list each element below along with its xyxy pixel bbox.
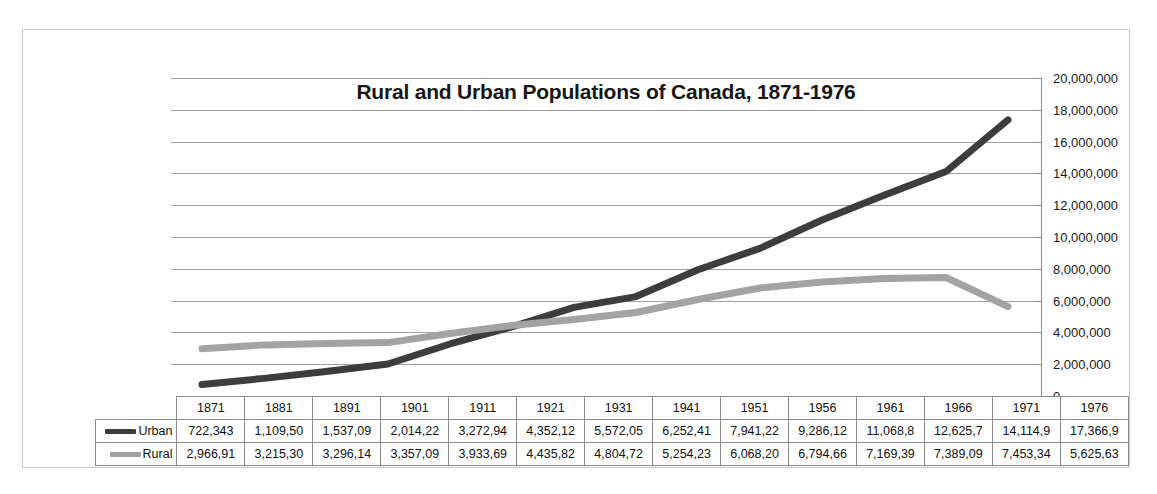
rural-line-swatch-icon — [110, 452, 141, 457]
table-cell: 4,352,12 — [517, 420, 585, 443]
table-cell: 3,357,09 — [381, 443, 449, 466]
table-cell: 5,572,05 — [585, 420, 653, 443]
table-col-header-1891: 1891 — [313, 397, 381, 420]
table-cell: 3,933,69 — [449, 443, 517, 466]
table-col-header-1941: 1941 — [653, 397, 721, 420]
table-col-header-1971: 1971 — [992, 397, 1060, 420]
axis-tick-label: 4,000,000 — [1053, 326, 1111, 339]
table-col-header-1881: 1881 — [245, 397, 313, 420]
axis-tick-label: 10,000,000 — [1053, 231, 1118, 244]
table-col-header-1911: 1911 — [449, 397, 517, 420]
urban-line-swatch-icon — [105, 429, 136, 434]
axis-tick-label: 18,000,000 — [1053, 104, 1118, 117]
table-cell: 14,114,9 — [992, 420, 1060, 443]
axis-tick — [1035, 110, 1041, 111]
legend-item-rural[interactable]: Rural — [96, 443, 177, 466]
axis-tick-label: 6,000,000 — [1053, 295, 1111, 308]
table-cell: 3,272,94 — [449, 420, 517, 443]
axis-tick-label: 14,000,000 — [1053, 167, 1118, 180]
axis-tick-label: 2,000,000 — [1053, 358, 1111, 371]
table-row-rural: Rural 2,966,913,215,303,296,143,357,093,… — [96, 443, 1129, 466]
table-col-header-1966: 1966 — [924, 397, 992, 420]
table-col-header-1901: 1901 — [381, 397, 449, 420]
axis-tick — [1035, 332, 1041, 333]
table-cell: 1,109,50 — [245, 420, 313, 443]
table-col-header-1976: 1976 — [1060, 397, 1128, 420]
table-col-header-1921: 1921 — [517, 397, 585, 420]
chart-object-frame[interactable]: Rural and Urban Populations of Canada, 1… — [22, 29, 1130, 468]
chart-screenshot: Rural and Urban Populations of Canada, 1… — [0, 0, 1157, 494]
axis-tick — [1035, 205, 1041, 206]
table-cell: 6,794,66 — [789, 443, 857, 466]
table-cell: 9,286,12 — [789, 420, 857, 443]
axis-tick — [1035, 364, 1041, 365]
legend-item-urban[interactable]: Urban — [96, 420, 177, 443]
axis-tick — [1035, 269, 1041, 270]
axis-tick-label: 8,000,000 — [1053, 263, 1111, 276]
table-cell: 7,389,09 — [924, 443, 992, 466]
axis-tick — [1035, 173, 1041, 174]
table-col-header-1871: 1871 — [177, 397, 245, 420]
table-cell: 5,254,23 — [653, 443, 721, 466]
table-cell: 3,215,30 — [245, 443, 313, 466]
series-line-rural — [202, 277, 1008, 348]
table-cell: 4,435,82 — [517, 443, 585, 466]
table-cell: 7,453,34 — [992, 443, 1060, 466]
table-cell: 6,252,41 — [653, 420, 721, 443]
axis-tick — [1035, 237, 1041, 238]
axis-tick-label: 12,000,000 — [1053, 199, 1118, 212]
plot-area[interactable] — [171, 78, 1041, 396]
table-cell: 7,941,22 — [721, 420, 789, 443]
table-cell: 2,014,22 — [381, 420, 449, 443]
table-header-row: 1871188118911901191119211931194119511956… — [96, 397, 1129, 420]
table-cell: 6,068,20 — [721, 443, 789, 466]
table-row-urban: Urban 722,3431,109,501,537,092,014,223,2… — [96, 420, 1129, 443]
axis-tick — [1035, 78, 1041, 79]
legend-header-blank — [96, 397, 177, 420]
table-cell: 11,068,8 — [856, 420, 924, 443]
table-cell: 4,804,72 — [585, 443, 653, 466]
axis-tick — [1035, 301, 1041, 302]
axis-tick — [1035, 142, 1041, 143]
table-cell: 3,296,14 — [313, 443, 381, 466]
value-axis-line — [1041, 78, 1042, 396]
table-cell: 722,343 — [177, 420, 245, 443]
axis-tick-label: 20,000,000 — [1053, 72, 1118, 85]
table-col-header-1961: 1961 — [856, 397, 924, 420]
table-cell: 7,169,39 — [856, 443, 924, 466]
table-col-header-1951: 1951 — [721, 397, 789, 420]
table-col-header-1931: 1931 — [585, 397, 653, 420]
data-table[interactable]: 1871188118911901191119211931194119511956… — [95, 396, 1129, 466]
table-cell: 17,366,9 — [1060, 420, 1128, 443]
legend-label-urban: Urban — [138, 424, 172, 438]
table-cell: 12,625,7 — [924, 420, 992, 443]
table-cell: 1,537,09 — [313, 420, 381, 443]
table-col-header-1956: 1956 — [789, 397, 857, 420]
table-cell: 2,966,91 — [177, 443, 245, 466]
legend-label-rural: Rural — [143, 447, 173, 461]
series-lines — [171, 78, 1041, 396]
table-cell: 5,625,63 — [1060, 443, 1128, 466]
axis-tick-label: 16,000,000 — [1053, 136, 1118, 149]
